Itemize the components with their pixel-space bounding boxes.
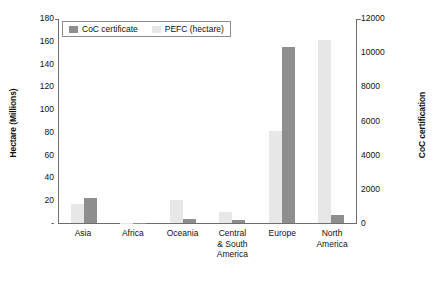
y-tick-left-20: 20 — [28, 196, 54, 205]
legend-entry-pefc: PEFC (hectare) — [152, 24, 224, 34]
x-axis-label-africa: Africa — [108, 228, 158, 278]
bar-groups — [59, 19, 356, 223]
axis-cap-tick — [55, 19, 59, 20]
y-tick-left-140: 140 — [28, 60, 54, 69]
x-axis-category-labels: AsiaAfricaOceaniaCentral& SouthAmericaEu… — [58, 228, 357, 278]
legend-swatch-coc-icon — [69, 26, 78, 33]
bar-group — [307, 19, 357, 223]
x-axis-label-north-america: NorthAmerica — [307, 228, 357, 278]
y-tick-left-40: 40 — [28, 173, 54, 182]
x-axis-label-europe: Europe — [257, 228, 307, 278]
bar-coc[interactable] — [331, 215, 344, 223]
bar-pefc[interactable] — [170, 200, 183, 223]
x-axis-label-central-south-america: Central& SouthAmerica — [207, 228, 257, 278]
bar-coc[interactable] — [232, 220, 245, 223]
bar-coc[interactable] — [84, 198, 97, 223]
y-axis-right-title: CoC certification — [417, 65, 427, 185]
y-tick-right-0: 0 — [361, 219, 395, 228]
y-tick-left-100: 100 — [28, 105, 54, 114]
y-tick-right-2000: 2000 — [361, 185, 395, 194]
bar-group — [208, 19, 258, 223]
y-tick-left-80: 80 — [28, 128, 54, 137]
bar-pefc[interactable] — [71, 204, 84, 223]
bar-pefc[interactable] — [269, 131, 282, 223]
y-tick-left-60: 60 — [28, 151, 54, 160]
y-tick-right-12000: 12000 — [361, 14, 395, 23]
bar-group — [59, 19, 109, 223]
legend-label-pefc: PEFC (hectare) — [165, 24, 224, 34]
y-tick-left-120: 120 — [28, 82, 54, 91]
bar-group — [158, 19, 208, 223]
bar-group — [257, 19, 307, 223]
chart-legend: CoC certificate PEFC (hectare) — [62, 21, 231, 37]
bar-coc[interactable] — [133, 223, 146, 224]
x-axis-label-asia: Asia — [58, 228, 108, 278]
y-tick-right-10000: 10000 — [361, 48, 395, 57]
legend-label-coc: CoC certificate — [82, 24, 138, 34]
bar-pefc[interactable] — [318, 40, 331, 223]
bar-pefc[interactable] — [219, 212, 232, 223]
bar-coc[interactable] — [282, 47, 295, 223]
y-tick-left-0: - — [28, 219, 54, 228]
y-tick-right-6000: 6000 — [361, 117, 395, 126]
y-axis-left-title: Hectare (Millions) — [8, 63, 18, 183]
y-tick-right-8000: 8000 — [361, 82, 395, 91]
bar-chart-figure: Hectare (Millions) CoC certification 180… — [0, 0, 433, 281]
y-tick-left-180: 180 — [28, 14, 54, 23]
legend-swatch-pefc-icon — [152, 26, 161, 33]
bar-group — [109, 19, 159, 223]
legend-entry-coc: CoC certificate — [69, 24, 138, 34]
axis-cap-tick — [357, 19, 361, 20]
x-axis-label-oceania: Oceania — [158, 228, 208, 278]
bar-coc[interactable] — [183, 219, 196, 223]
plot-area — [58, 19, 357, 224]
y-tick-right-4000: 4000 — [361, 151, 395, 160]
y-tick-left-160: 160 — [28, 37, 54, 46]
